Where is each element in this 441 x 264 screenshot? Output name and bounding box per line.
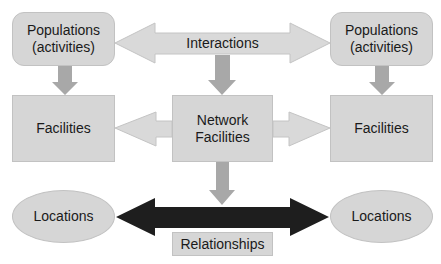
down-arrow-left-populations-to-facilities <box>52 66 78 95</box>
relationships-label-box: Relationships <box>172 232 273 256</box>
facilities-right-node: Facilities <box>330 95 433 162</box>
down-arrow-right-populations-to-facilities <box>369 66 395 95</box>
locations-right-node: Locations <box>330 190 433 243</box>
arrow-network-to-left-facilities <box>115 112 172 146</box>
locations-left-node: Locations <box>12 190 115 243</box>
down-arrow-interactions-to-network <box>208 55 236 95</box>
interactions-label: Interactions <box>155 35 290 51</box>
populations-right-node: Populations (activities) <box>330 12 433 66</box>
down-arrow-network-to-relationships <box>209 162 235 205</box>
arrow-network-to-right-facilities <box>273 112 330 146</box>
network-facilities-node: Network Facilities <box>172 95 273 162</box>
facilities-left-node: Facilities <box>12 95 115 162</box>
populations-left-node: Populations (activities) <box>12 12 115 66</box>
